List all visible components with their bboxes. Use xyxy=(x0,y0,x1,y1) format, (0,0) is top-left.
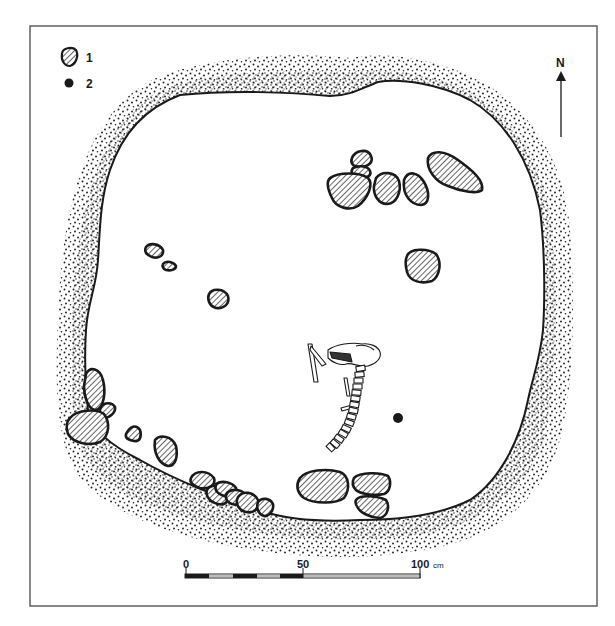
stone xyxy=(208,290,228,308)
legend-stone-symbol xyxy=(62,48,77,66)
scale-label-100: 100 xyxy=(411,558,429,570)
north-arrow: N xyxy=(556,56,566,137)
scale-seg-2 xyxy=(209,575,233,577)
scale-seg-4 xyxy=(257,575,280,577)
stone xyxy=(351,151,371,167)
stone xyxy=(84,369,104,410)
legend: 1 2 xyxy=(62,48,93,91)
archaeological-plan: 1 2 N 0 50 100 cm xyxy=(0,0,615,626)
stone xyxy=(374,173,400,204)
stone xyxy=(297,470,348,503)
scale-unit: cm xyxy=(433,561,444,570)
north-label: N xyxy=(556,56,565,70)
scale-label-0: 0 xyxy=(183,558,189,570)
stone xyxy=(257,499,273,516)
scale-seg-1 xyxy=(185,574,209,578)
scale-seg-3 xyxy=(233,574,257,578)
pit-outline xyxy=(85,81,544,521)
stone xyxy=(145,244,163,257)
post-hole xyxy=(393,413,403,423)
stone xyxy=(67,411,108,444)
scale-seg-6 xyxy=(303,575,420,577)
stone xyxy=(353,473,390,495)
legend-label-2: 2 xyxy=(86,77,93,91)
stone xyxy=(237,493,259,513)
stone xyxy=(126,427,141,442)
scale-label-50: 50 xyxy=(297,558,309,570)
scale-seg-5 xyxy=(280,574,303,578)
scale-bar: 0 50 100 cm xyxy=(183,558,444,578)
stone xyxy=(406,250,440,283)
legend-post-hole-symbol xyxy=(65,79,74,88)
north-arrow-head xyxy=(556,71,566,81)
legend-label-1: 1 xyxy=(86,51,93,65)
stone xyxy=(163,262,176,271)
